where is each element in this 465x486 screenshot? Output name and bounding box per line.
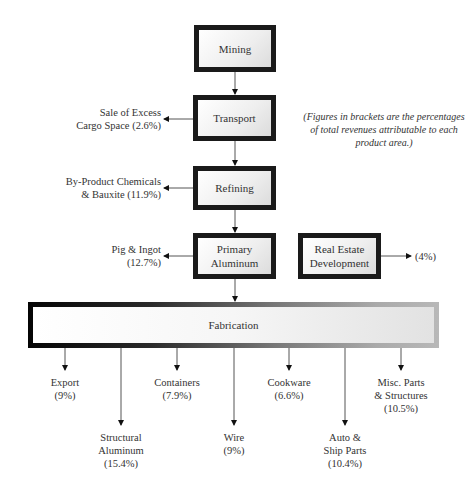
output-cookware: Cookware (6.6%) xyxy=(267,376,310,402)
stage-fabrication: Fabrication xyxy=(28,302,439,348)
stage-label-line2: Aluminum xyxy=(211,256,259,270)
output-byproduct-chemicals: By-Product Chemicals & Bauxite (11.9%) xyxy=(66,175,161,201)
output-export: Export (9%) xyxy=(51,376,80,402)
output-structural-aluminum: Structural Aluminum (15.4%) xyxy=(98,431,144,470)
output-containers: Containers (7.9%) xyxy=(154,376,200,402)
output-cargo-space: Sale of Excess Cargo Space (2.6%) xyxy=(76,106,161,132)
stage-refining: Refining xyxy=(193,166,276,210)
output-auto-ship-parts: Auto & Ship Parts (10.4%) xyxy=(324,431,367,470)
output-misc-parts: Misc. Parts & Structures (10.5%) xyxy=(374,376,427,415)
stage-label: Fabrication xyxy=(208,319,258,331)
output-real-estate: (4%) xyxy=(415,250,436,263)
stage-label-line1: Primary xyxy=(217,242,252,256)
stage-real-estate: Real Estate Development xyxy=(298,233,381,279)
stage-label: Mining xyxy=(219,42,251,56)
stage-transport: Transport xyxy=(193,95,276,141)
stage-primary-aluminum: Primary Aluminum xyxy=(193,233,276,279)
footnote: (Figures in brackets are the percentages… xyxy=(303,110,465,149)
stage-label-line2: Development xyxy=(310,256,369,270)
output-wire: Wire (9%) xyxy=(224,431,245,457)
stage-label: Refining xyxy=(215,181,254,195)
stage-mining: Mining xyxy=(194,25,276,72)
stage-label-line1: Real Estate xyxy=(315,242,365,256)
output-pig-ingot: Pig & Ingot (12.7%) xyxy=(111,243,161,269)
stage-label: Transport xyxy=(213,111,255,125)
